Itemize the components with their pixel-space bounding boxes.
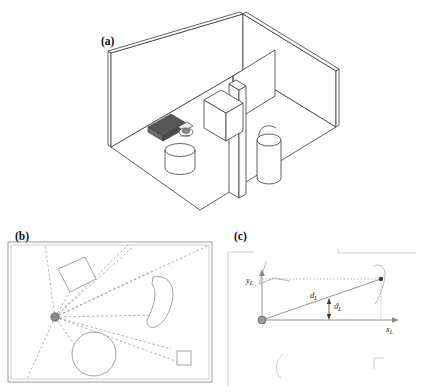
faint-map-context [228,249,416,386]
figure-root: (a) [0,0,429,392]
axis-y-arrowhead [259,269,265,276]
cylinder-small-top [165,144,195,157]
range-ray [262,279,381,320]
panel-b [0,226,228,392]
measured-point-dot [379,277,383,281]
panel-c-drawing: yL xL dL ϑL [226,226,429,392]
angle-label: ϑL [334,301,342,312]
room-wall-left-edge [108,51,111,147]
panel-c-label: (c) [234,231,247,243]
range-label: dL [310,290,318,301]
axis-x-label: xL [385,324,394,335]
axis-y-label: yL [245,275,254,286]
angle-arrow-up [327,298,331,304]
axis-x [262,317,399,323]
faint-obstacle-curve [374,265,385,304]
axis-y [259,269,265,320]
sensor-origin-dot [51,313,59,321]
robot-laser-lens [182,129,190,134]
angle-indicator [327,298,331,320]
faint-arc-bottom [276,354,283,378]
obstacle-circle [72,332,116,376]
laser-origin-dot [258,316,266,324]
faint-border-top-right [338,249,416,253]
panel-b-label: (b) [15,231,29,243]
panel-c: yL xL dL ϑL [226,226,429,392]
panel-a-drawing [0,0,429,228]
axis-x-arrowhead [392,317,399,323]
cylinder-large-top [257,134,281,146]
faint-obstacle-box [259,262,290,284]
angle-arrow-down [327,314,331,320]
panel-a [0,0,429,228]
room-wall-right-edge [336,69,339,127]
panel-b-drawing [0,226,228,392]
obstacle-small-square [177,351,191,365]
faint-corner-bottom-right [374,358,384,369]
cylinder-large-body [257,140,281,184]
panel-a-label: (a) [101,36,114,48]
